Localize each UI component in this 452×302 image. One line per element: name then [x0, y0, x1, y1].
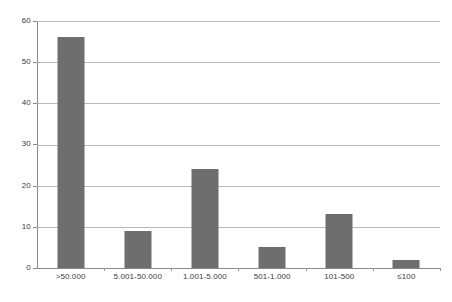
y-axis-labels: 60 50 40 30 20 10 0	[0, 0, 31, 302]
x-axis-category-label: 1.001-5.000	[171, 272, 238, 281]
x-axis-category-label: ≤100	[373, 272, 440, 281]
y-axis-tick-label: 40	[5, 99, 31, 107]
x-axis-tick-mark	[171, 268, 172, 271]
y-axis-tick-label: 20	[5, 182, 31, 190]
bar	[393, 260, 420, 268]
bar-chart: 60 50 40 30 20 10 0	[0, 0, 452, 302]
bar	[191, 169, 218, 268]
bar	[326, 214, 353, 268]
x-axis-category-label: 5.001-50.000	[104, 272, 171, 281]
bar-slot	[306, 21, 373, 268]
x-axis-category-label: >50.000	[37, 272, 104, 281]
y-axis-tick-label: 10	[5, 223, 31, 231]
bar-slot	[171, 21, 238, 268]
y-axis-tick-label: 30	[5, 140, 31, 148]
x-axis-tick-mark	[104, 268, 105, 271]
bar-slot	[104, 21, 171, 268]
x-axis-tick-mark	[238, 268, 239, 271]
x-axis-labels: >50.000 5.001-50.000 1.001-5.000 501-1.0…	[37, 272, 440, 292]
bar-slot	[37, 21, 104, 268]
x-axis-tick-mark	[306, 268, 307, 271]
bar	[57, 37, 84, 268]
x-axis-category-label: 501-1.000	[239, 272, 306, 281]
bar	[124, 231, 151, 268]
bar-slot	[239, 21, 306, 268]
bar-slot	[373, 21, 440, 268]
x-axis-tick-mark	[440, 268, 441, 271]
y-axis-tick-label: 60	[5, 17, 31, 25]
y-axis-tick-label: 50	[5, 58, 31, 66]
bars-layer	[37, 21, 440, 268]
y-axis-tick-label: 0	[5, 264, 31, 272]
x-axis-tick-mark	[373, 268, 374, 271]
bar	[259, 247, 286, 268]
plot-area	[37, 21, 440, 268]
x-axis-category-label: 101-500	[306, 272, 373, 281]
